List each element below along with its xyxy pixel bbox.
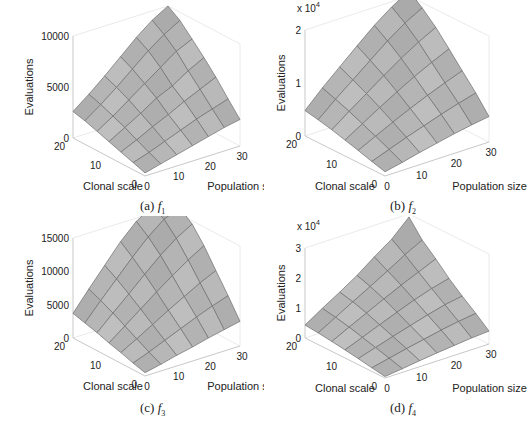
- x-tick-label: 30: [236, 151, 248, 162]
- y-tick-label: 10: [90, 360, 102, 371]
- x-tick-label: 0: [384, 383, 390, 394]
- y-axis-label: Clonal scale: [315, 382, 375, 394]
- surface-plot-d: 0102030010200123x 104Population sizeClon…: [265, 216, 529, 416]
- z-axis-label: Evaluations: [275, 54, 287, 111]
- caption-b: (b) f2: [390, 198, 416, 216]
- z-tick-label: 15000: [41, 233, 69, 244]
- caption-prefix: (a): [140, 198, 154, 213]
- caption-prefix: (c): [140, 400, 154, 415]
- surface-mesh: [305, 0, 489, 172]
- x-tick-label: 20: [451, 360, 463, 371]
- y-tick-label: 10: [326, 361, 338, 372]
- z-tick-label: 0: [295, 131, 301, 142]
- caption-prefix: (d): [390, 400, 405, 415]
- surface-plot-c: 010203001020050001000015000Population si…: [0, 216, 264, 416]
- caption-d: (d) f4: [390, 400, 416, 418]
- x-tick-label: 0: [144, 181, 150, 192]
- x-tick-label: 20: [205, 361, 217, 372]
- surface-plot-b: 010203001020012x 104Population sizeClona…: [265, 0, 529, 200]
- x-axis-label: Population size: [452, 180, 527, 192]
- z-tick-label: 5000: [47, 300, 70, 311]
- caption-c: (c) f3: [140, 400, 165, 418]
- caption-sub: 3: [161, 409, 165, 418]
- z-tick-label: 10000: [41, 31, 69, 42]
- plot-panel-b: 010203001020012x 104Population sizeClona…: [265, 0, 529, 216]
- caption-sub: 1: [161, 207, 165, 216]
- z-tick-label: 3: [295, 243, 301, 254]
- y-axis-label: Clonal scale: [83, 180, 143, 192]
- y-tick-label: 10: [90, 160, 102, 171]
- x-tick-label: 20: [451, 158, 463, 169]
- x-axis-label: Population size: [207, 380, 264, 392]
- caption-prefix: (b): [390, 198, 405, 213]
- x-tick-label: 30: [236, 351, 248, 362]
- surface-mesh: [73, 216, 240, 373]
- z-axis-label: Evaluations: [23, 259, 35, 316]
- x-axis-label: Population size: [207, 180, 264, 192]
- x-tick-label: 10: [416, 372, 428, 383]
- z-tick-label: 2: [295, 273, 301, 284]
- plot-panel-c: 010203001020050001000015000Population si…: [0, 216, 264, 432]
- x-tick-label: 30: [485, 349, 497, 360]
- z-tick-label: 0: [295, 333, 301, 344]
- z-multiplier-label: x 104: [297, 219, 320, 232]
- z-tick-label: 0: [63, 133, 69, 144]
- z-tick-label: 1: [295, 78, 301, 89]
- x-tick-label: 10: [173, 371, 185, 382]
- x-tick-label: 0: [144, 381, 150, 392]
- plot-panel-a: 0102030010200500010000Population sizeClo…: [0, 0, 264, 216]
- x-tick-label: 20: [205, 161, 217, 172]
- y-axis-label: Clonal scale: [315, 180, 375, 192]
- caption-a: (a) f1: [140, 198, 165, 216]
- x-axis-label: Population size: [452, 382, 527, 394]
- z-axis-label: Evaluations: [23, 58, 35, 115]
- caption-sub: 2: [412, 207, 416, 216]
- z-tick-label: 0: [63, 333, 69, 344]
- x-tick-label: 10: [416, 170, 428, 181]
- z-tick-label: 2: [295, 25, 301, 36]
- z-tick-label: 5000: [47, 82, 70, 93]
- y-tick-label: 10: [326, 159, 338, 170]
- y-axis-label: Clonal scale: [83, 380, 143, 392]
- z-multiplier-label: x 104: [297, 1, 320, 14]
- caption-sub: 4: [412, 409, 416, 418]
- z-axis-label: Evaluations: [275, 264, 287, 321]
- z-tick-label: 10000: [41, 266, 69, 277]
- surface-plot-a: 0102030010200500010000Population sizeClo…: [0, 0, 264, 200]
- x-tick-label: 0: [384, 181, 390, 192]
- plot-panel-d: 0102030010200123x 104Population sizeClon…: [265, 216, 529, 432]
- x-tick-label: 10: [173, 171, 185, 182]
- x-tick-label: 30: [485, 147, 497, 158]
- z-tick-label: 1: [295, 303, 301, 314]
